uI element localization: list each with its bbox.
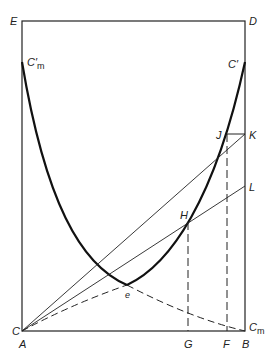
- label-g: G: [184, 338, 193, 350]
- label-c-prime: C′: [228, 58, 239, 70]
- ray-a-to-l: [22, 186, 245, 331]
- label-e-corner: E: [10, 15, 18, 27]
- label-e-point: e: [125, 290, 130, 300]
- dashed-curve-left: [22, 285, 127, 331]
- label-j: J: [215, 129, 222, 141]
- label-b: B: [242, 338, 249, 350]
- label-k: K: [249, 129, 257, 141]
- curve-cm-prime-branch: [22, 62, 127, 285]
- label-c-m-bottom-right: Cm: [249, 321, 264, 336]
- diagram-canvas: E D C′m C′ J K L H e C A G F B Cm: [0, 0, 276, 358]
- label-l: L: [249, 181, 255, 193]
- label-f: F: [223, 338, 231, 350]
- label-c-prime-m: C′m: [27, 56, 45, 71]
- label-h: H: [180, 209, 188, 221]
- label-d-corner: D: [249, 15, 257, 27]
- label-a: A: [18, 338, 26, 350]
- ray-a-to-k: [22, 134, 245, 331]
- label-c-bottom-left: C: [12, 325, 20, 337]
